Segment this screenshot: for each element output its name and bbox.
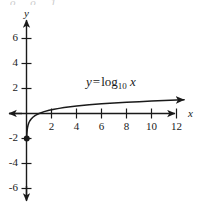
x-tick-label-10: 10	[144, 120, 159, 132]
logarithm-graph-figure: o o 1	[0, 0, 203, 205]
y-tick-label-2: 2	[4, 81, 18, 93]
equation-argument: x	[130, 74, 136, 89]
x-tick-label-8: 8	[119, 120, 134, 132]
coordinate-plane	[0, 0, 203, 205]
y-tick-label-6: 6	[4, 31, 18, 43]
x-tick-label-2: 2	[44, 120, 59, 132]
y-axis-label: y	[24, 7, 29, 19]
x-tick-label-6: 6	[94, 120, 109, 132]
x-axis-label: x	[188, 107, 193, 119]
curve-endpoint-dot	[24, 136, 30, 142]
equation-lhs: y	[86, 74, 92, 89]
y-tick-label-4: 4	[4, 56, 18, 68]
curve-equation-label: y=log10 x	[86, 74, 136, 91]
x-tick-label-4: 4	[69, 120, 84, 132]
equation-function: log	[101, 74, 118, 89]
equation-equals: =	[92, 74, 101, 89]
x-tick-label-12: 12	[169, 120, 184, 132]
equation-base: 10	[118, 81, 127, 91]
y-tick-label-minus-4: -4	[0, 156, 18, 168]
y-tick-label-minus-2: -2	[0, 131, 18, 143]
y-tick-label-minus-6: -6	[0, 181, 18, 193]
